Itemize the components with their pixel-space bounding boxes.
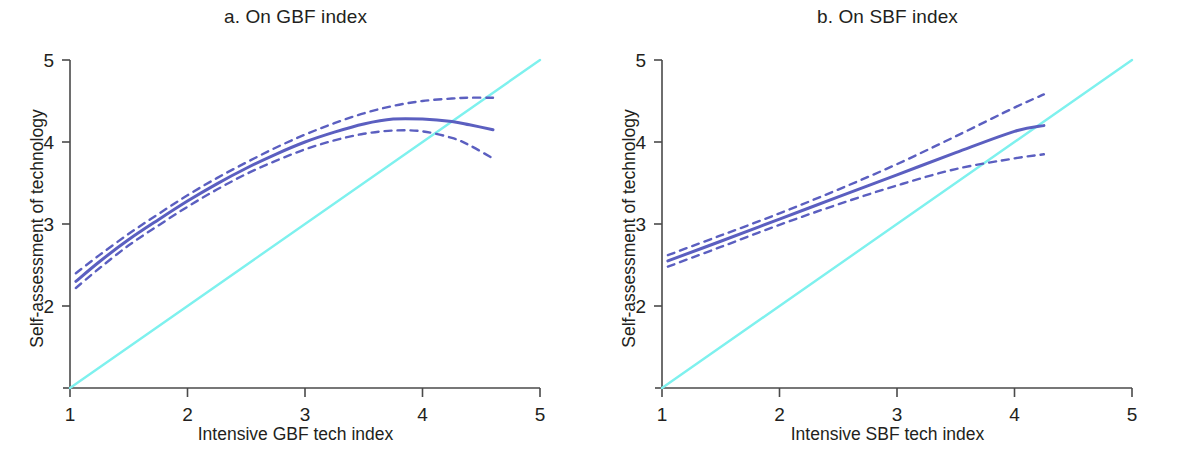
reference-line-45deg <box>70 60 540 388</box>
x-tick-label: 5 <box>1127 404 1138 425</box>
panel-b-x-axis-label: Intensive SBF tech index <box>592 424 1183 445</box>
confidence-band-line <box>668 94 1044 255</box>
panel-b-y-axis-label: Self-assessment of technology <box>619 64 640 394</box>
confidence-band-line <box>76 130 493 288</box>
x-axis-ticks: 12345 <box>65 388 546 425</box>
panel-b-plot: 234512345 <box>592 0 1183 459</box>
panel-a-x-axis-label: Intensive GBF tech index <box>0 424 591 445</box>
fitted-line <box>668 126 1044 261</box>
figure-container: a. On GBF index 234512345 Self-assessmen… <box>0 0 1183 459</box>
x-tick-label: 3 <box>300 404 311 425</box>
x-tick-label: 1 <box>657 404 668 425</box>
confidence-band-line <box>76 98 493 274</box>
x-axis-ticks: 12345 <box>657 388 1138 425</box>
reference-line-45deg <box>662 60 1132 388</box>
x-tick-label: 5 <box>535 404 546 425</box>
confidence-band-line <box>668 154 1044 266</box>
panel-sbf: b. On SBF index 234512345 Self-assessmen… <box>592 0 1183 459</box>
panel-a-y-axis-label: Self-assessment of technology <box>27 64 48 394</box>
x-tick-label: 4 <box>417 404 428 425</box>
x-tick-label: 2 <box>182 404 193 425</box>
x-tick-label: 3 <box>892 404 903 425</box>
panel-a-plot: 234512345 <box>0 0 591 459</box>
x-tick-label: 2 <box>774 404 785 425</box>
panel-gbf: a. On GBF index 234512345 Self-assessmen… <box>0 0 591 459</box>
x-tick-label: 1 <box>65 404 76 425</box>
x-tick-label: 4 <box>1009 404 1020 425</box>
